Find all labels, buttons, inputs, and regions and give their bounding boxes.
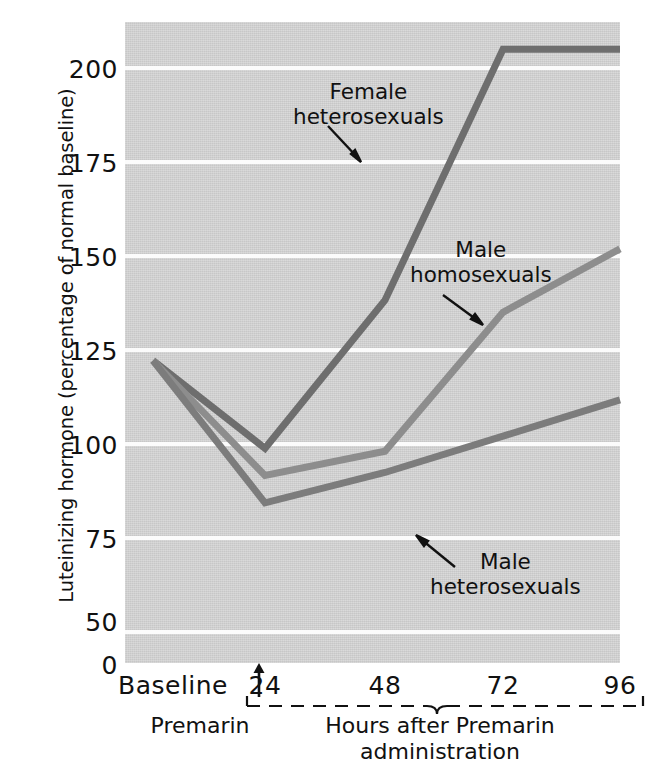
y-tick-200: 200	[6, 57, 118, 82]
y-axis-tick-labels: 200 175 150 125 100 75 50 0	[0, 0, 118, 768]
premarin-arrow-icon	[248, 663, 270, 697]
y-tick-100: 100	[6, 433, 118, 458]
y-tick-50: 50	[6, 610, 118, 635]
caption-premarin: Premarin	[120, 713, 280, 739]
y-tick-150: 150	[6, 245, 118, 270]
caption-hours-after-premarin: Hours after Premarin administration	[290, 713, 590, 765]
annotation-female-heterosexuals: Female heterosexuals	[293, 80, 444, 129]
annotation-male-homosexuals: Male homosexuals	[410, 238, 552, 287]
plot-area: Female heterosexuals Male homosexuals Ma…	[125, 22, 620, 663]
y-tick-175: 175	[6, 151, 118, 176]
arrow-female-heterosexuals	[328, 126, 361, 162]
y-tick-125: 125	[6, 339, 118, 364]
arrow-male-homosexuals	[443, 295, 483, 325]
annotation-male-heterosexuals: Male heterosexuals	[430, 550, 581, 599]
y-tick-75: 75	[6, 527, 118, 552]
y-tick-0: 0	[6, 653, 118, 678]
chart-figure: Luteinizing hormone (percentage of norma…	[0, 0, 667, 768]
